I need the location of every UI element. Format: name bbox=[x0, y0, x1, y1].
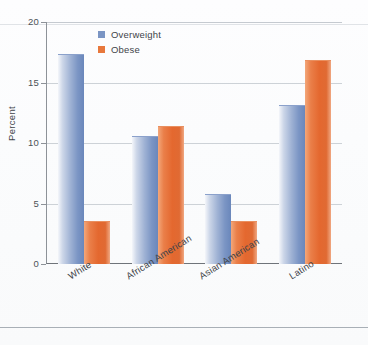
grouped-bar-chart: Percent 05101520 WhiteAfrican AmericanAs… bbox=[0, 0, 368, 345]
legend-label-overweight: Overweight bbox=[111, 29, 161, 40]
bar-overweight-white bbox=[58, 54, 84, 264]
y-tick-label: 5 bbox=[9, 198, 39, 209]
chart-legend: Overweight Obese bbox=[98, 28, 161, 58]
legend-item-obese: Obese bbox=[98, 43, 161, 56]
y-tick-label: 15 bbox=[9, 77, 39, 88]
bar-overweight-latino bbox=[279, 105, 305, 265]
y-tick-label: 10 bbox=[9, 137, 39, 148]
legend-swatch-obese bbox=[98, 46, 105, 53]
y-axis-title: Percent bbox=[6, 106, 17, 141]
bar-obese-latino bbox=[305, 60, 331, 264]
page-background: Percent 05101520 WhiteAfrican AmericanAs… bbox=[0, 0, 368, 345]
bars-layer bbox=[47, 22, 342, 264]
legend-label-obese: Obese bbox=[111, 44, 140, 55]
y-tick-mark bbox=[41, 264, 46, 265]
y-tick-label: 0 bbox=[9, 258, 39, 269]
bar-obese-white bbox=[84, 221, 110, 264]
bar-overweight-african-american bbox=[132, 136, 158, 264]
legend-item-overweight: Overweight bbox=[98, 28, 161, 41]
legend-swatch-overweight bbox=[98, 31, 105, 38]
y-tick-label: 20 bbox=[9, 16, 39, 27]
